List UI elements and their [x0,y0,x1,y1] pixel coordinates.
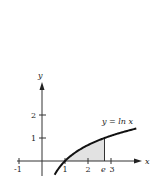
x-tick-label: 1 [63,165,68,174]
y-ticks: 12 [31,111,46,143]
x-tick-label: e [101,165,106,174]
y-axis-arrow-icon [40,82,45,90]
curve-label: y = ln x [101,117,134,126]
ln-graph: -112e3 12 x y y = ln x [0,0,160,176]
x-tick-label: -1 [14,165,22,174]
y-tick-label: 1 [31,134,36,143]
x-tick-label: 2 [86,165,91,174]
x-tick-label: 3 [110,165,115,174]
y-axis-label: y [37,71,43,80]
x-axis-arrow-icon [134,159,142,164]
y-tick-label: 2 [31,111,36,120]
shaded-area [65,138,105,161]
x-axis-label: x [145,157,150,166]
